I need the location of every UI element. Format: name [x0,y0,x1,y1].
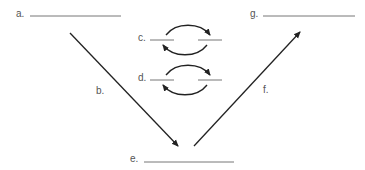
arrow-c-reverse [163,45,207,55]
label-e: e. [130,154,138,164]
arrow-d-forward [166,65,210,75]
arrow-f [194,32,300,146]
label-d: d. [138,73,146,83]
arrow-c-forward [166,25,210,35]
label-g: g. [250,9,258,19]
label-a: a. [16,9,24,19]
label-f: f. [263,85,269,95]
label-b: b. [96,86,104,96]
arrow-d-reverse [163,85,207,95]
label-c: c. [138,33,146,43]
arrow-b [70,33,178,146]
diagram-canvas [0,0,365,170]
